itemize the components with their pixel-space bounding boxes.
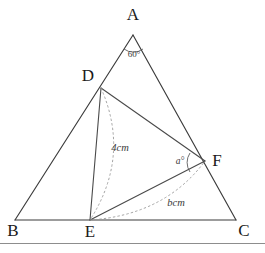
segment-label-EF: bcm [167,197,185,208]
vertex-label-D: D [82,66,94,85]
vertex-label-C: C [238,221,249,240]
vertex-label-F: F [212,151,221,170]
segment-label-DE: 4cm [111,142,129,153]
angle-label-A: 60° [128,49,141,59]
edge-DE [90,88,101,220]
vertex-label-B: B [7,221,18,240]
vertex-label-A: A [127,5,140,24]
geometry-figure: A B C D E F 60° a° 4cm bcm [0,0,265,253]
edge-AC [133,35,236,220]
geometry-diagram-canvas: A B C D E F 60° a° 4cm bcm [0,0,265,253]
edge-EF [90,161,205,220]
vertex-label-E: E [85,222,95,241]
edge-AB [15,35,133,220]
arc-DE-dashed [90,88,114,220]
angle-label-F: a° [176,156,185,166]
